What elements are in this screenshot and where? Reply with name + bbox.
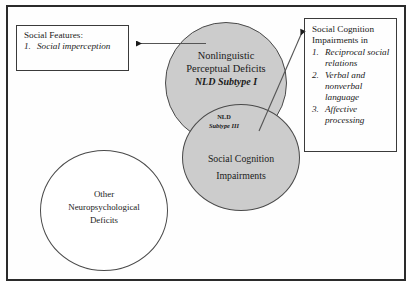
circle-nonlinguistic-label: Nonlinguistic Perceptual Deficits NLD Su… — [166, 49, 286, 89]
social-cognition-circle-line1: Social Cognition — [208, 153, 274, 164]
nonlinguistic-subtype: NLD Subtype I — [195, 76, 257, 87]
social-cognition-item-3-text: Affective processing — [325, 104, 392, 127]
other-neuro-line3: Deficits — [90, 215, 118, 225]
social-cognition-item-2-text: Verbal and nonverbal language — [325, 70, 392, 104]
social-features-heading: Social Features: — [24, 30, 122, 41]
social-cognition-item-3-num: 3. — [312, 104, 319, 115]
figure-root: Nonlinguistic Perceptual Deficits NLD Su… — [0, 0, 414, 289]
social-cognition-list: 1. Reciprocal social relations 2. Verbal… — [312, 47, 392, 127]
social-features-item-1-text: Social imperception — [37, 41, 122, 52]
nonlinguistic-line2: Perceptual Deficits — [186, 63, 265, 74]
list-item: 3. Affective processing — [312, 104, 392, 127]
circle-other-neuropsychological-deficits: Other Neuropsychological Deficits — [40, 150, 168, 271]
circle-other-neuro-label: Other Neuropsychological Deficits — [41, 188, 167, 227]
list-item: 1. Reciprocal social relations — [312, 47, 392, 70]
intersection-label-nld-subtype-3: NLD Subtype III — [189, 112, 259, 131]
social-cognition-heading-line2: Impairments in — [312, 35, 392, 46]
social-features-list: 1. Social imperception — [24, 41, 122, 52]
social-cognition-item-1-num: 1. — [312, 47, 319, 58]
list-item: 2. Verbal and nonverbal language — [312, 70, 392, 104]
intersection-line2: Subtype III — [209, 122, 239, 129]
social-features-box: Social Features: 1. Social imperception — [16, 25, 129, 71]
intersection-line1: NLD — [217, 113, 231, 120]
other-neuro-line2: Neuropsychological — [68, 202, 139, 212]
social-cognition-impairments-box: Social Cognition Impairments in 1. Recip… — [304, 18, 397, 152]
social-cognition-circle-line2: Impairments — [216, 170, 266, 181]
list-item: 1. Social imperception — [24, 41, 122, 52]
social-cognition-item-1-text: Reciprocal social relations — [325, 47, 392, 70]
nonlinguistic-line1: Nonlinguistic — [198, 50, 255, 61]
social-features-item-1-num: 1. — [24, 41, 31, 52]
other-neuro-line1: Other — [94, 189, 114, 199]
circle-social-cognition-label: Social Cognition Impairments — [183, 150, 299, 184]
social-cognition-heading-line1: Social Cognition — [312, 24, 392, 35]
social-cognition-item-2-num: 2. — [312, 70, 319, 81]
